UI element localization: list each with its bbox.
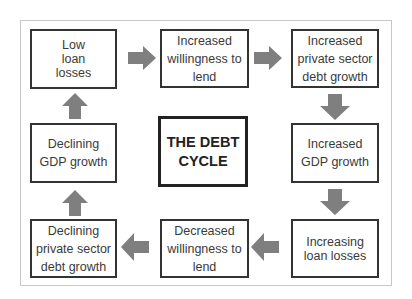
node-label: Low loan losses (50, 38, 98, 80)
node-label: Increased GDP growth (295, 135, 375, 171)
arrow-left-icon (251, 233, 279, 261)
node-label: Increased private sector debt growth (295, 32, 375, 86)
node-label: Declining private sector debt growth (34, 222, 113, 276)
node-increased-private-sector-debt-growth: Increased private sector debt growth (291, 29, 379, 88)
node-increased-willingness-to-lend: Increased willingness to lend (160, 29, 249, 88)
arrow-down-icon (320, 189, 350, 215)
node-label: Decreased willingness to lend (164, 222, 245, 276)
node-decreased-willingness-to-lend: Decreased willingness to lend (160, 219, 249, 278)
node-label: Increased willingness to lend (164, 32, 245, 86)
arrow-right-icon (128, 46, 156, 70)
arrow-up-icon (62, 190, 88, 216)
node-declining-gdp-growth: Declining GDP growth (30, 123, 117, 183)
center-title-line2: CYCLE (178, 152, 227, 171)
node-low-loan-losses: Low loan losses (30, 29, 117, 89)
arrow-left-icon (121, 233, 149, 261)
arrow-right-icon (254, 46, 282, 70)
arrow-up-icon (62, 93, 88, 119)
node-declining-private-sector-debt-growth: Declining private sector debt growth (30, 219, 117, 278)
center-title-line1: THE DEBT (167, 133, 240, 152)
node-increased-gdp-growth: Increased GDP growth (291, 123, 379, 183)
node-label: Increasing loan losses (303, 235, 367, 263)
center-title-box: THE DEBT CYCLE (158, 116, 248, 187)
node-increasing-loan-losses: Increasing loan losses (291, 219, 379, 278)
arrow-down-icon (320, 94, 350, 120)
node-label: Declining GDP growth (34, 135, 113, 171)
